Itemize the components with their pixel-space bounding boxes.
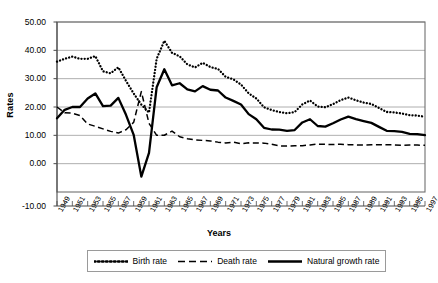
legend-label-birth-rate: Birth rate <box>133 256 168 266</box>
legend-label-natural-growth-rate: Natural growth rate <box>307 256 379 266</box>
chart-legend: Birth rate Death rate Natural growth rat… <box>87 250 386 272</box>
legend-swatch-solid-icon <box>268 258 302 265</box>
legend-item-birth-rate: Birth rate <box>94 256 168 266</box>
legend-swatch-dotted-icon <box>94 258 128 265</box>
legend-item-natural-growth-rate: Natural growth rate <box>268 256 379 266</box>
plot-area <box>0 0 438 283</box>
series-line-death-rate <box>57 92 425 146</box>
chart-container: Rates Years 50.0040.0030.0020.0010.000.0… <box>0 0 438 283</box>
legend-item-death-rate: Death rate <box>178 256 257 266</box>
legend-swatch-dashed-icon <box>178 258 212 265</box>
legend-label-death-rate: Death rate <box>217 256 257 266</box>
